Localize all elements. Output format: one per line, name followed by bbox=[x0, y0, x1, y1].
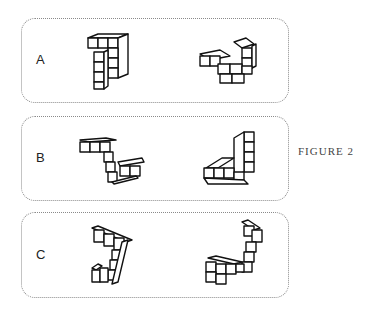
panel-label: B bbox=[36, 150, 45, 165]
cube-structure-a-left bbox=[84, 30, 134, 90]
panel-label: A bbox=[36, 52, 45, 67]
panel-label: C bbox=[36, 247, 45, 262]
cube-structure-c-left bbox=[88, 224, 138, 290]
figure-caption: FIGURE 2 bbox=[298, 145, 354, 157]
cube-structure-a-right bbox=[198, 36, 260, 86]
cube-structure-c-right bbox=[202, 218, 264, 288]
cube-structure-b-right bbox=[200, 128, 260, 190]
cube-structure-b-left bbox=[76, 136, 148, 188]
